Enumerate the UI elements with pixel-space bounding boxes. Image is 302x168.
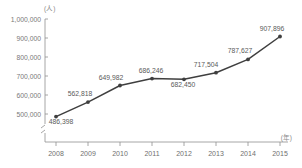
y-tick-label: 700,000 bbox=[16, 73, 41, 80]
data-point-marker bbox=[278, 35, 282, 39]
line-chart: (人) 1,000,000 900,000 800,000 700,000 60… bbox=[0, 0, 302, 168]
data-point-marker bbox=[214, 71, 218, 75]
y-tick-label: 900,000 bbox=[16, 35, 41, 42]
data-value-label: 717,504 bbox=[194, 61, 219, 68]
data-value-label: 486,398 bbox=[49, 118, 74, 125]
x-tick-label: 2015 bbox=[272, 150, 288, 157]
x-tick-label: 2009 bbox=[80, 150, 96, 157]
data-point-marker bbox=[86, 100, 90, 104]
data-value-label: 787,627 bbox=[228, 47, 253, 54]
y-tick-label: 600,000 bbox=[16, 92, 41, 99]
data-value-label: 686,246 bbox=[139, 67, 164, 74]
data-point-marker bbox=[246, 58, 250, 62]
data-value-label: 907,896 bbox=[260, 25, 285, 32]
data-value-label: 649,982 bbox=[99, 74, 124, 81]
x-tick-label: 2014 bbox=[240, 150, 256, 157]
chart-canvas: (人) 1,000,000 900,000 800,000 700,000 60… bbox=[0, 0, 302, 168]
y-axis-unit-label: (人) bbox=[44, 5, 55, 13]
data-value-label: 562,818 bbox=[68, 90, 93, 97]
y-tick-label: 1,000,000 bbox=[11, 16, 41, 23]
x-tick-label: 2011 bbox=[144, 150, 159, 157]
x-axis-unit-label: (年) bbox=[281, 133, 292, 142]
x-tick-label: 2010 bbox=[112, 150, 128, 157]
x-tick-label: 2012 bbox=[176, 150, 192, 157]
y-axis-break-icon bbox=[41, 125, 45, 133]
data-value-label: 682,450 bbox=[171, 81, 196, 88]
x-tick-label: 2008 bbox=[48, 150, 64, 157]
x-tick-label: 2013 bbox=[208, 150, 224, 157]
data-point-marker bbox=[118, 84, 122, 88]
y-tick-label: 800,000 bbox=[16, 54, 41, 61]
y-tick-label: 500,000 bbox=[16, 111, 41, 118]
data-point-marker bbox=[150, 77, 154, 81]
